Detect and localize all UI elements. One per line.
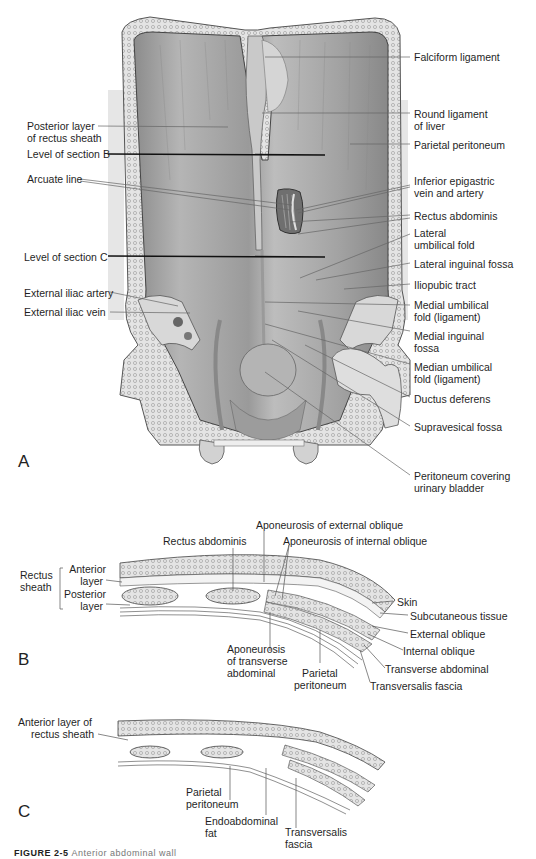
label-external-iliac-artery: External iliac artery [24, 287, 113, 299]
label-external-oblique: External oblique [410, 628, 485, 640]
label-endoabdominal-fat-line1: Endoabdominal [205, 815, 278, 827]
label-medial-inguinal-line1: Medial inguinal [414, 330, 484, 342]
label-external-iliac-vein: External iliac vein [24, 306, 106, 318]
label-anterior-layer-line2: layer [66, 575, 103, 587]
label-median-umbilical-line2: fold (ligament) [414, 373, 481, 385]
label-posterior-layer-b-line2: layer [66, 600, 103, 612]
panel-c-letter: C [18, 802, 30, 822]
label-apo-transverse-line1: Aponeurosis [227, 643, 285, 655]
label-transversalis-fascia-c-line1: Transversalis [285, 826, 347, 838]
label-posterior-layer-line1: Posterior layer [27, 120, 95, 132]
panel-b-letter: B [18, 650, 29, 670]
label-peritoneum-bladder-line1: Peritoneum covering [414, 470, 510, 482]
label-parietal-peritoneum-b-line1: Parietal [302, 667, 338, 679]
label-rectus-abdominis-b: Rectus abdominis [163, 535, 246, 547]
label-transverse-abdominal: Transverse abdominal [385, 663, 489, 675]
label-posterior-layer-b-line1: Posterior [62, 588, 106, 600]
label-median-umbilical-line1: Median umbilical [414, 361, 492, 373]
label-round-ligament-line1: Round ligament [414, 108, 488, 120]
panel-a-letter: A [18, 452, 29, 472]
panel-c-drawing [118, 720, 385, 814]
label-rectus-sheath-line1: Rectus [20, 569, 53, 581]
label-endoabdominal-fat-line2: fat [205, 827, 217, 839]
label-arcuate-line: Arcuate line [27, 173, 82, 185]
label-parietal-peritoneum-c-line2: peritoneum [186, 798, 239, 810]
label-falciform-ligament: Falciform ligament [414, 51, 500, 63]
label-parietal-peritoneum-b-line2: peritoneum [294, 679, 347, 691]
label-skin: Skin [397, 596, 417, 608]
section-c-line [108, 256, 325, 257]
label-medial-umbilical-line2: fold (ligament) [414, 311, 481, 323]
label-apo-transverse-line3: abdominal [227, 667, 275, 679]
caption-text: Anterior abdominal wall [72, 848, 177, 858]
label-posterior-layer-line2: of rectus sheath [27, 132, 102, 144]
caption-prefix: FIGURE 2-5 [14, 848, 69, 858]
label-rectus-abdominis: Rectus abdominis [414, 210, 497, 222]
label-section-b: Level of section B [27, 148, 110, 160]
label-anterior-layer-c-line1: Anterior layer of [10, 716, 92, 728]
label-anterior-layer-c-line2: rectus sheath [10, 728, 94, 740]
label-apo-transverse-line2: of transverse [227, 655, 288, 667]
label-ductus-deferens: Ductus deferens [414, 393, 490, 405]
label-transversalis-fascia-c-line2: fascia [285, 838, 312, 850]
label-parietal-peritoneum: Parietal peritoneum [414, 139, 505, 151]
label-internal-oblique: Internal oblique [403, 645, 475, 657]
label-anterior-layer-line1: Anterior [66, 563, 106, 575]
label-lateral-umbilical-line2: umbilical fold [414, 239, 475, 251]
label-rectus-sheath-line2: sheath [20, 581, 52, 593]
label-aponeurosis-internal-oblique: Aponeurosis of internal oblique [283, 535, 427, 547]
label-peritoneum-bladder-line2: urinary bladder [414, 482, 484, 494]
figure-caption: FIGURE 2-5 Anterior abdominal wall [14, 848, 177, 858]
panel-a-drawing [108, 17, 410, 464]
label-round-ligament-line2: of liver [414, 120, 445, 132]
label-medial-inguinal-line2: fossa [414, 342, 439, 354]
label-inferior-epigastric-line1: Inferior epigastric [414, 175, 495, 187]
panel-c-leaders [98, 734, 296, 828]
label-subcutaneous-tissue: Subcutaneous tissue [410, 610, 507, 622]
label-aponeurosis-external-oblique: Aponeurosis of external oblique [256, 519, 403, 531]
label-iliopubic-tract: Iliopubic tract [414, 279, 476, 291]
label-lateral-inguinal-fossa: Lateral inguinal fossa [414, 258, 513, 270]
label-section-c: Level of section C [24, 251, 107, 263]
section-b-line [108, 154, 325, 155]
label-lateral-umbilical-line1: Lateral [414, 227, 446, 239]
label-supravesical-fossa: Supravesical fossa [414, 421, 502, 433]
label-inferior-epigastric-line2: vein and artery [414, 187, 483, 199]
label-transversalis-fascia-b: Transversalis fascia [370, 680, 462, 692]
label-medial-umbilical-line1: Medial umbilical [414, 299, 489, 311]
label-parietal-peritoneum-c-line1: Parietal [186, 786, 222, 798]
